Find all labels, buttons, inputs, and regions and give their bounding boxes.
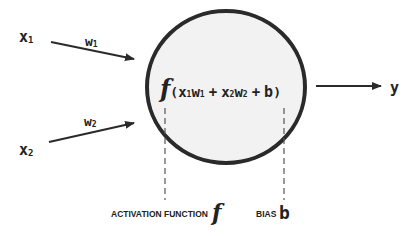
- activation-function-label: ACTIVATION FUNCTION: [111, 209, 208, 219]
- weight-w2-label: w2: [84, 114, 97, 129]
- output-y-label: y: [390, 79, 399, 97]
- input-x1-label: x1: [19, 28, 33, 46]
- bias-symbol: b: [279, 202, 290, 223]
- activation-function-symbol: f: [210, 199, 225, 225]
- weight-w1-label: w1: [85, 34, 98, 49]
- bias-label: BIAS: [256, 209, 277, 219]
- input-x2-label: x2: [19, 141, 33, 159]
- neuron-diagram: x1 w1 x2 w2 f(x1w1+x2w2+b) y ACTIVATION …: [0, 0, 413, 236]
